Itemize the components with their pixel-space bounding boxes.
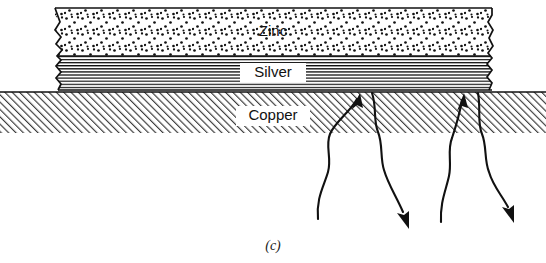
figure-caption: (c) [265,238,281,254]
arrow-down-left-head [397,211,409,229]
silver-label: Silver [254,63,292,80]
zinc-label: Zinc [259,22,288,39]
copper-label: Copper [248,106,297,123]
layered-coating-diagram: Zinc Silver Copper (c) [0,0,546,263]
